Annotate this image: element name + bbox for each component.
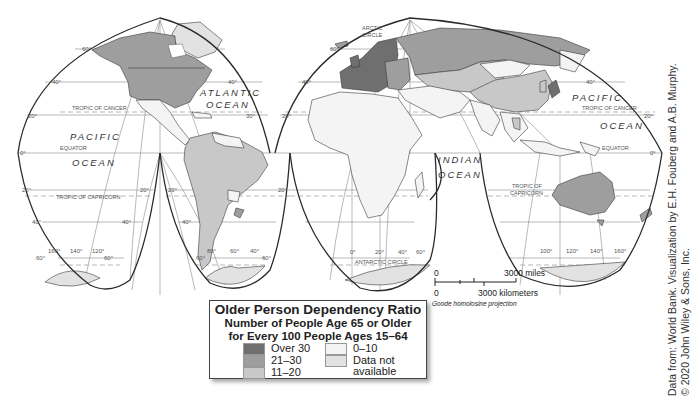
region-antarctica-w (45, 271, 100, 286)
svg-text:40°: 40° (250, 248, 260, 254)
svg-text:100°: 100° (540, 248, 553, 254)
ocean-label-pacific-e-1: PACIFIC (572, 92, 623, 103)
ocean-label-indian-1: INDIAN (438, 154, 482, 165)
svg-text:40°: 40° (586, 79, 596, 85)
ocean-label-pacific-e-2: OCEAN (600, 120, 644, 131)
svg-text:EQUATOR: EQUATOR (602, 145, 629, 151)
scale-miles-label: 3000 miles (504, 268, 545, 278)
region-australia (552, 172, 615, 215)
svg-text:60°: 60° (82, 46, 92, 52)
svg-text:60°: 60° (330, 46, 340, 52)
svg-text:40°: 40° (398, 249, 408, 255)
svg-text:140°: 140° (70, 248, 83, 254)
projection-label: Goode homolosine projection (432, 300, 517, 307)
legend-subtitle-1: Number of People Age 65 or Older (210, 317, 426, 330)
map-legend: Older Person Dependency Ratio Number of … (209, 300, 427, 379)
scale-ruler (434, 278, 520, 286)
svg-text:30°: 30° (246, 113, 256, 119)
ocean-label-atlantic-2: OCEAN (206, 99, 250, 110)
svg-text:TROPIC OF: TROPIC OF (512, 183, 543, 189)
svg-text:160°: 160° (48, 248, 61, 254)
scale-bar: 0 3000 miles 0 3000 kilometers Goode hom… (432, 268, 582, 313)
svg-text:ANTARCTIC CIRCLE: ANTARCTIC CIRCLE (355, 259, 408, 265)
legend-subtitle-2: for Every 100 People Ages 15–64 (210, 330, 426, 343)
legend-swatch (325, 343, 347, 355)
svg-text:0°: 0° (20, 150, 26, 156)
svg-text:0°: 0° (350, 249, 356, 255)
svg-text:20°: 20° (28, 113, 38, 119)
legend-swatch (243, 367, 265, 379)
region-africa (308, 92, 422, 218)
legend-item-no-data: Data not available (325, 355, 396, 377)
svg-text:40°: 40° (122, 219, 132, 225)
credit-line-2: © 2020 John Wiley & Sons, Inc. (679, 63, 692, 396)
svg-text:120°: 120° (92, 248, 105, 254)
svg-text:20°: 20° (168, 187, 178, 193)
svg-text:20°: 20° (22, 187, 32, 193)
svg-text:40°: 40° (182, 219, 192, 225)
svg-text:20°: 20° (644, 113, 654, 119)
ocean-label-indian-2: OCEAN (438, 169, 482, 180)
svg-text:CAPRICORN: CAPRICORN (510, 190, 543, 196)
svg-text:20°: 20° (140, 187, 150, 193)
svg-text:20°: 20° (375, 249, 385, 255)
svg-text:80°: 80° (207, 248, 217, 254)
legend-item-11-20: 11–20 (243, 367, 301, 379)
legend-title: Older Person Dependency Ratio (210, 302, 426, 317)
svg-text:40°: 40° (228, 79, 238, 85)
svg-text:0°: 0° (650, 150, 656, 156)
legend-swatch (243, 343, 265, 355)
credit-line-1: Data from: World Bank. Visualization by … (666, 63, 679, 396)
svg-text:60°: 60° (262, 255, 272, 261)
ocean-label-pacific-w-2: OCEAN (72, 157, 116, 168)
svg-text:120°: 120° (566, 248, 579, 254)
svg-text:TROPIC OF CAPRICORN: TROPIC OF CAPRICORN (56, 194, 121, 200)
svg-text:20°: 20° (278, 187, 288, 193)
svg-text:40°: 40° (32, 219, 42, 225)
svg-text:40°: 40° (52, 79, 62, 85)
scale-miles-zero: 0 (434, 268, 439, 278)
svg-text:TROPIC OF CANCER: TROPIC OF CANCER (72, 105, 127, 111)
svg-text:60°: 60° (416, 249, 426, 255)
svg-text:ARCTIC: ARCTIC (362, 25, 383, 31)
svg-text:20°: 20° (282, 113, 292, 119)
legend-swatch (243, 355, 265, 367)
scale-km-label: 3000 kilometers (478, 288, 538, 298)
svg-text:EQUATOR: EQUATOR (60, 145, 87, 151)
legend-swatch (325, 355, 347, 367)
svg-text:40°: 40° (302, 79, 312, 85)
svg-text:140°: 140° (590, 248, 603, 254)
ocean-label-atlantic-1: ATLANTIC (199, 87, 261, 98)
svg-text:TROPIC OF CANCER: TROPIC OF CANCER (582, 105, 637, 111)
svg-text:160°: 160° (614, 248, 627, 254)
landmasses (45, 22, 652, 286)
source-credit: Data from: World Bank. Visualization by … (666, 63, 692, 396)
svg-text:CIRCLE: CIRCLE (362, 32, 383, 38)
svg-text:60°: 60° (230, 248, 240, 254)
svg-text:60°: 60° (36, 255, 46, 261)
svg-text:60°: 60° (196, 255, 206, 261)
ocean-label-pacific-w-1: PACIFIC (70, 131, 121, 142)
scale-km-zero: 0 (434, 288, 439, 298)
svg-text:60°: 60° (104, 255, 114, 261)
